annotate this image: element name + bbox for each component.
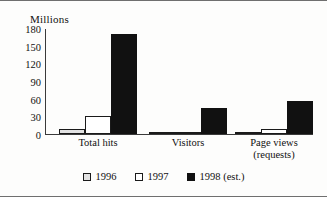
- x-axis-group-label: Page views (requests): [250, 137, 298, 161]
- legend-swatch-icon: [135, 173, 143, 181]
- bar-set: [59, 29, 137, 134]
- legend-label: 1996: [96, 171, 117, 182]
- bar-group: Page views (requests): [235, 29, 313, 134]
- bar-group: Visitors: [149, 29, 227, 134]
- bar-1997: [85, 116, 111, 134]
- y-tick-label: 0: [1, 130, 41, 141]
- y-tick-label: 30: [1, 112, 41, 123]
- bar-1996: [59, 129, 85, 134]
- chart-figure: Millions 180 150 120 90 60 30 0 Total hi…: [0, 0, 327, 197]
- x-axis-group-label-text: Total hits: [78, 137, 117, 148]
- x-axis-group-label-text: Page views: [250, 137, 298, 148]
- bar-1998: [201, 108, 227, 134]
- x-axis-group-sublabel-text: (requests): [250, 149, 298, 161]
- y-axis-line: [45, 29, 46, 135]
- y-tick-label: 120: [1, 59, 41, 70]
- x-axis-group-label-text: Visitors: [172, 137, 205, 148]
- legend-swatch-icon: [83, 173, 91, 181]
- legend-swatch-icon: [187, 173, 195, 181]
- y-tick-label: 60: [1, 94, 41, 105]
- legend-item-1997: 1997: [135, 171, 169, 182]
- bar-1996: [149, 132, 175, 134]
- bar-group: Total hits: [59, 29, 137, 134]
- y-tick-label: 90: [1, 77, 41, 88]
- y-tick-label: 180: [1, 24, 41, 35]
- bar-set: [149, 29, 227, 134]
- y-tick-label: 150: [1, 41, 41, 52]
- bar-1998: [287, 101, 313, 134]
- legend-label: 1997: [148, 171, 169, 182]
- x-axis-line: [45, 134, 313, 135]
- bar-1997: [261, 129, 287, 134]
- bar-1996: [235, 132, 261, 134]
- bar-1997: [175, 132, 201, 134]
- plot-area: 180 150 120 90 60 30 0 Total hits: [45, 29, 313, 135]
- legend-label: 1998 (est.): [200, 171, 245, 182]
- bar-1998: [111, 34, 137, 134]
- legend-item-1998: 1998 (est.): [187, 171, 245, 182]
- bar-set: [235, 29, 313, 134]
- x-axis-group-label: Visitors: [172, 137, 205, 149]
- legend-item-1996: 1996: [83, 171, 117, 182]
- x-axis-group-label: Total hits: [78, 137, 117, 149]
- chart-legend: 1996 1997 1998 (est.): [0, 171, 327, 182]
